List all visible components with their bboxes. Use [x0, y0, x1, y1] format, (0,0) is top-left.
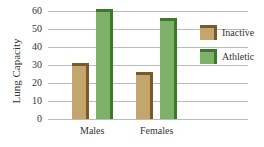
gridline: [48, 47, 248, 48]
tick-40: 40: [28, 41, 42, 52]
tick-60: 60: [28, 5, 42, 16]
legend-label-athletic: Athletic: [222, 51, 254, 62]
bar-males-athletic: [96, 9, 113, 119]
legend-swatch-inactive: [200, 25, 217, 40]
category-males: Males: [80, 125, 104, 136]
y-axis-label: Lung Capacity: [10, 31, 22, 111]
gridline: [48, 29, 248, 30]
tick-20: 20: [28, 77, 42, 88]
gridline: [48, 119, 248, 120]
tick-10: 10: [28, 95, 42, 106]
bar-females-inactive: [136, 72, 153, 119]
tick-50: 50: [28, 23, 42, 34]
bar-males-inactive: [72, 63, 89, 119]
bar-females-athletic: [160, 18, 177, 119]
tick-0: 0: [28, 113, 42, 124]
gridline: [48, 11, 248, 12]
category-females: Females: [140, 125, 173, 136]
tick-30: 30: [28, 59, 42, 70]
legend-swatch-athletic: [200, 49, 217, 64]
legend-label-inactive: Inactive: [222, 27, 254, 38]
